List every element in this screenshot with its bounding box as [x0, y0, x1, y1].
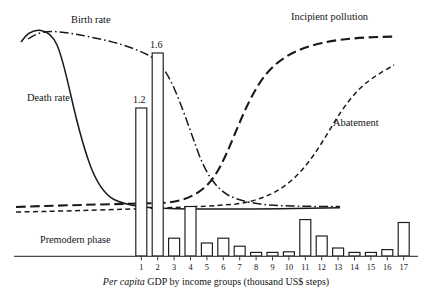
bar-14 [349, 252, 360, 256]
tick-label-15: 15 [367, 263, 375, 272]
curve-abatement [16, 65, 394, 212]
x-axis: 1 2 3 4 5 6 7 8 9 10 11 12 13 14 15 16 1… [14, 256, 418, 272]
tick-label-10: 10 [285, 263, 293, 272]
bar-10 [283, 252, 294, 256]
bar-7 [234, 246, 245, 256]
label-birth-rate: Birth rate [71, 14, 111, 25]
bar-11 [300, 220, 311, 256]
bar-group [136, 53, 409, 256]
bar-13 [333, 248, 344, 256]
bar-17 [398, 223, 409, 257]
bar-16 [382, 250, 393, 256]
bar-3 [169, 238, 180, 256]
bar-value-label-2: 1.6 [150, 39, 163, 50]
bar-8 [251, 252, 262, 256]
tick-label-3: 3 [172, 263, 176, 272]
label-premodern-phase: Premodern phase [40, 234, 111, 245]
axis-ticks [141, 256, 403, 260]
curve-death-rate [21, 30, 340, 209]
tick-label-16: 16 [383, 263, 391, 272]
curve-birth-rate [28, 31, 340, 206]
x-axis-title-italic: Per capita [102, 276, 145, 287]
tick-label-12: 12 [318, 263, 326, 272]
tick-label-6: 6 [221, 263, 225, 272]
tick-label-5: 5 [205, 263, 209, 272]
tick-label-4: 4 [188, 263, 193, 272]
tick-label-1: 1 [139, 263, 143, 272]
label-abatement: Abatement [333, 117, 379, 128]
x-axis-title: Per capita GDP by income groups (thousan… [102, 276, 329, 288]
tick-label-17: 17 [400, 263, 408, 272]
axis-tick-labels: 1 2 3 4 5 6 7 8 9 10 11 12 13 14 15 16 1… [139, 263, 408, 272]
chart-canvas: 1 2 3 4 5 6 7 8 9 10 11 12 13 14 15 16 1… [0, 0, 426, 292]
bar-2 [152, 53, 163, 256]
bar-value-label-1: 1.2 [133, 94, 146, 105]
bar-6 [218, 238, 229, 256]
tick-label-9: 9 [270, 263, 274, 272]
bar-5 [201, 243, 212, 256]
bar-1 [136, 108, 147, 256]
tick-label-2: 2 [156, 263, 160, 272]
x-axis-title-rest: GDP by income groups (thousand US$ steps… [145, 276, 329, 288]
bar-9 [267, 252, 278, 256]
tick-label-11: 11 [301, 263, 309, 272]
label-incipient-pollution: Incipient pollution [291, 11, 369, 22]
tick-label-14: 14 [350, 263, 359, 272]
bar-12 [316, 236, 327, 256]
bar-15 [365, 252, 376, 256]
tick-label-13: 13 [334, 263, 342, 272]
tick-label-7: 7 [238, 263, 242, 272]
chart-figure: 1 2 3 4 5 6 7 8 9 10 11 12 13 14 15 16 1… [0, 0, 426, 292]
tick-label-8: 8 [254, 263, 258, 272]
bar-4 [185, 207, 196, 257]
label-death-rate: Death rate [27, 92, 70, 103]
